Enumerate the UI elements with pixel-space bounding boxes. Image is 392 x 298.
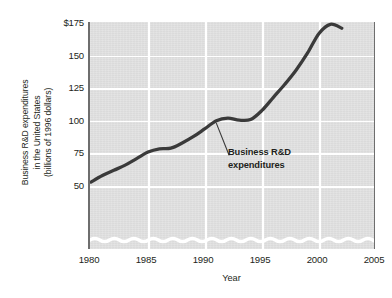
y-tick-label: 125 (48, 82, 84, 93)
x-tick-label: 1995 (236, 254, 284, 265)
y-tick-label: $175 (48, 17, 84, 28)
x-tick-label: 2000 (293, 254, 341, 265)
annotation-line-2: expenditures (228, 159, 291, 172)
chart-figure: Business R&D expenditures in the United … (0, 0, 392, 298)
y-tick-label: 100 (48, 115, 84, 126)
y-tick-label: 75 (48, 147, 84, 158)
y-tick-label: 150 (48, 50, 84, 61)
data-series-layer (90, 22, 375, 249)
x-tick-label: 1985 (122, 254, 170, 265)
x-axis-title: Year (88, 273, 375, 283)
y-tick-label: 50 (48, 180, 84, 191)
x-tick-label: 2005 (350, 254, 392, 265)
plot-area (88, 22, 375, 249)
series-line-business-rd (91, 24, 342, 182)
x-tick-label: 1980 (65, 254, 113, 265)
y-axis-title-line-2: in the United States (31, 27, 43, 237)
series-annotation-label: Business R&D expenditures (228, 146, 291, 171)
y-axis-break-wave-icon (90, 238, 375, 241)
x-tick-label: 1990 (179, 254, 227, 265)
y-axis-title-line-1: Business R&D expenditures (20, 27, 32, 237)
annotation-line-1: Business R&D (228, 146, 291, 159)
